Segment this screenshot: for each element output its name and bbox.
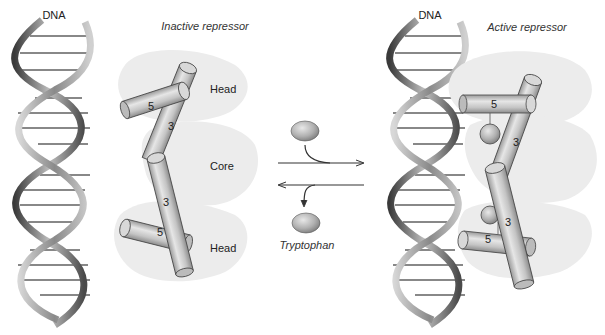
- helix-5-label-top-right: 5: [491, 98, 497, 110]
- active-repressor-title: Active repressor: [486, 21, 568, 33]
- bound-tryptophan-top: [480, 124, 500, 144]
- helix-3-label-top-left: 3: [168, 120, 174, 132]
- helix-3-label-bottom-left: 3: [163, 196, 169, 208]
- helix-3-label-bottom-right: 3: [505, 216, 511, 228]
- helix-3-label-top-right: 3: [513, 136, 519, 148]
- tryptophan-molecule-bottom: [292, 213, 320, 233]
- head-label-top: Head: [210, 83, 236, 95]
- core-label: Core: [210, 160, 234, 172]
- dna-helix-right: [390, 20, 466, 325]
- dna-helix-left: [15, 20, 91, 325]
- inactive-repressor-title: Inactive repressor: [161, 20, 250, 32]
- tryptophan-molecule-top: [291, 121, 319, 141]
- head-label-bottom: Head: [210, 242, 236, 254]
- helix-5-label-bottom-right: 5: [485, 233, 491, 245]
- dna-label-right: DNA: [418, 9, 442, 21]
- equilibrium-arrows: [278, 121, 364, 233]
- trp-repressor-diagram: DNA Inactive repressor Head Core Head: [0, 0, 605, 335]
- helix-5-label-bottom-left: 5: [157, 226, 163, 238]
- tryptophan-label: Tryptophan: [280, 239, 335, 251]
- dna-label-left: DNA: [42, 9, 66, 21]
- helix-5-label-top-left: 5: [148, 100, 154, 112]
